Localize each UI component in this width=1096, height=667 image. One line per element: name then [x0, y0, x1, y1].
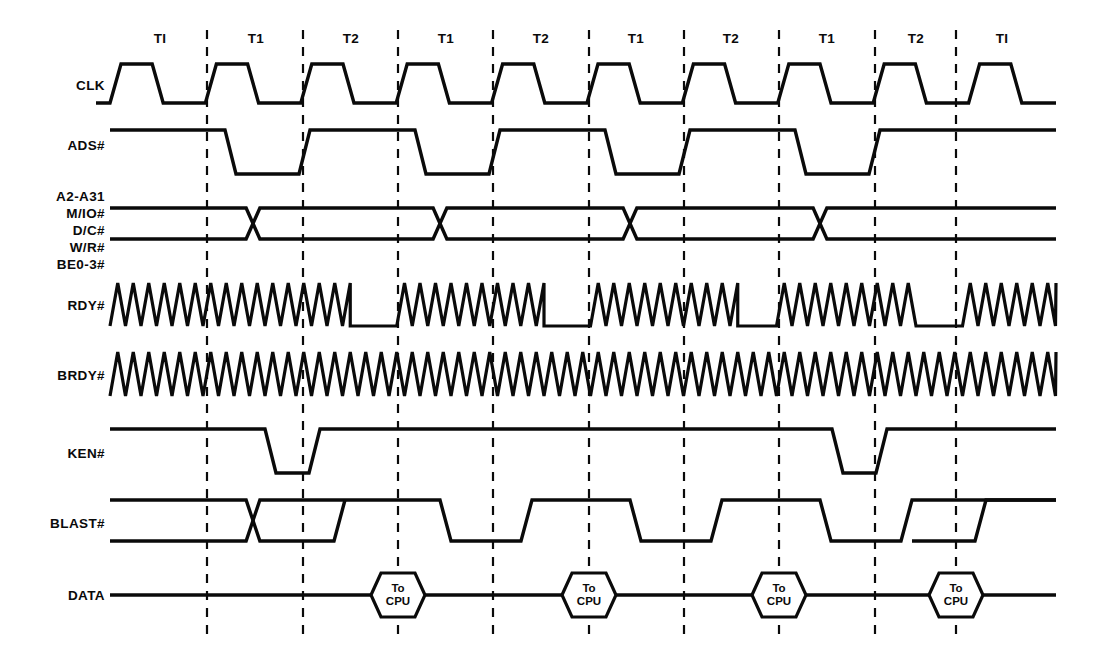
period-label-8: T2 — [908, 31, 924, 46]
signal-label-rdy: RDY# — [67, 298, 105, 313]
period-label-9: TI — [996, 31, 1009, 46]
data-hexagon-label-0-1: CPU — [386, 595, 410, 607]
period-label-2: T2 — [343, 31, 359, 46]
signal-label-data: DATA — [68, 588, 105, 603]
signal-label-brdy: BRDY# — [57, 368, 105, 383]
period-label-3: T1 — [438, 31, 455, 46]
data-hexagon-label-2-1: CPU — [767, 595, 791, 607]
period-label-5: T1 — [628, 31, 645, 46]
diagram-background — [0, 0, 1096, 667]
period-label-4: T2 — [533, 31, 549, 46]
signal-label-clk: CLK — [76, 78, 105, 93]
period-label-0: TI — [154, 31, 167, 46]
signal-label-dc: D/C# — [73, 223, 105, 238]
data-hexagon-label-1-0: To — [582, 582, 595, 594]
timing-diagram-svg: TIT1T2T1T2T1T2T1T2TI CLKADS#A2-A31M/IO#D… — [0, 0, 1096, 667]
signal-label-blast: BLAST# — [50, 516, 105, 531]
signal-label-ads: ADS# — [67, 138, 105, 153]
data-hexagon-label-2-0: To — [772, 582, 785, 594]
period-label-7: T1 — [819, 31, 836, 46]
timing-diagram-canvas: TIT1T2T1T2T1T2T1T2TI CLKADS#A2-A31M/IO#D… — [0, 0, 1096, 667]
period-label-6: T2 — [723, 31, 739, 46]
data-hexagon-label-1-1: CPU — [577, 595, 601, 607]
period-label-1: T1 — [248, 31, 265, 46]
data-hexagon-label-3-0: To — [949, 582, 962, 594]
signal-label-wr: W/R# — [70, 240, 105, 255]
data-hexagon-label-3-1: CPU — [944, 595, 968, 607]
signal-label-a2a31: A2-A31 — [56, 189, 105, 204]
signal-label-be03: BE0-3# — [57, 257, 105, 272]
data-hexagon-label-0-0: To — [391, 582, 404, 594]
signal-label-mio: M/IO# — [66, 206, 105, 221]
signal-label-ken: KEN# — [67, 446, 105, 461]
